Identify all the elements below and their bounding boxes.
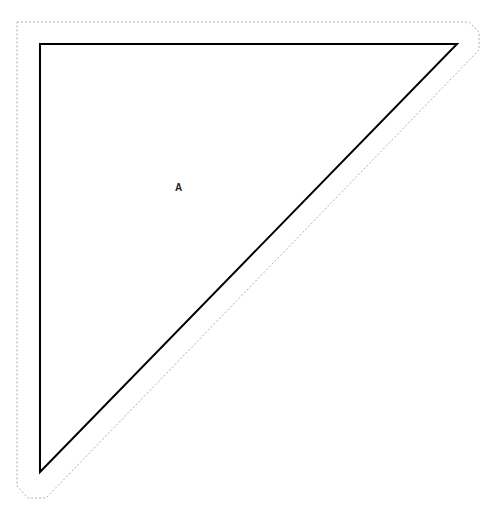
diagram-canvas: [0, 0, 494, 513]
shape-label: A: [175, 182, 182, 193]
triangle-shape-a[interactable]: [40, 44, 457, 472]
